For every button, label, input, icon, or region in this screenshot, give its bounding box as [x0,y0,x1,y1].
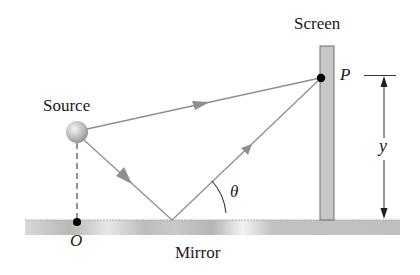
screen-label: Screen [294,14,340,34]
mirror-label: Mirror [175,243,220,263]
source-label: Source [43,96,90,116]
distance-y-label: y [379,136,387,157]
point-o-label: O [70,231,82,251]
point-o-dot [73,218,81,226]
point-p-label: P [340,65,350,85]
reflected-ray [172,79,320,220]
incident-ray [84,140,172,220]
incident-ray-arrow-icon [116,167,132,184]
angle-theta-arc [212,181,226,213]
dimension-arrow-down-icon [381,208,388,219]
direct-ray-arrow-icon [192,101,210,110]
screen [320,46,334,220]
diagram-canvas [0,0,420,275]
dimension-arrow-up-icon [381,76,388,87]
point-p-dot [317,74,325,82]
angle-theta-label: θ [230,182,238,202]
source-ball [66,121,88,143]
direct-ray [87,78,320,129]
